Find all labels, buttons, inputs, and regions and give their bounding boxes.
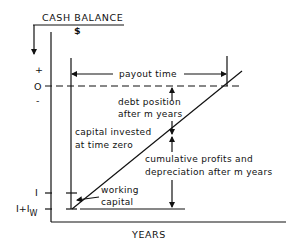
x-axis-label: YEARS	[131, 229, 166, 240]
debt-position-label-2: after m years	[118, 109, 182, 119]
cash-balance-diagram: CASH BALANCE $ YEARS + O - I I+IW payout…	[0, 0, 296, 242]
capital-invested-label-1: capital invested	[75, 127, 151, 137]
debt-position-label-1: debt position	[118, 97, 181, 107]
payout-time-label: payout time	[119, 69, 177, 79]
y-axis-unit: $	[74, 25, 81, 36]
working-capital-label-2: capital	[101, 197, 133, 207]
working-capital-label-1: working	[101, 185, 139, 195]
tick-zero: O	[34, 81, 41, 92]
tick-investment-plus-working: I+IW	[16, 203, 38, 218]
y-axis-label: CASH BALANCE	[42, 12, 123, 23]
cumulative-label-1: cumulative profits and	[145, 154, 253, 164]
tick-minus: -	[36, 95, 39, 106]
tick-investment: I	[35, 187, 38, 198]
cumulative-label-2: depreciation after m years	[145, 167, 272, 177]
working-capital-pointer	[77, 197, 99, 200]
capital-invested-label-2: at time zero	[75, 140, 133, 150]
tick-plus: +	[35, 64, 43, 75]
